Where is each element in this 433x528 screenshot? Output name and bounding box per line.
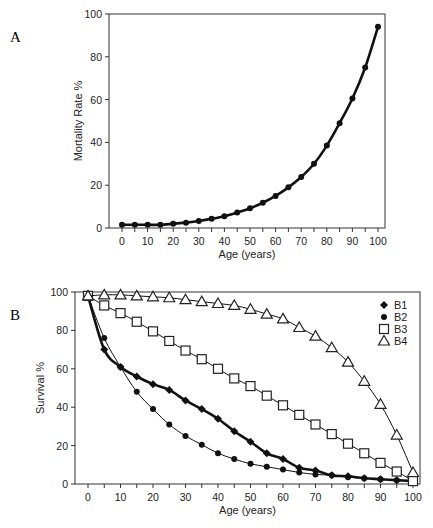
square-marker <box>246 382 255 391</box>
panel-b-label: B <box>10 307 20 323</box>
triangle-marker <box>278 313 289 323</box>
circle-marker <box>324 143 330 149</box>
y-tick-label: 0 <box>62 478 68 490</box>
y-tick-label: 20 <box>56 440 68 452</box>
square-marker <box>344 439 353 448</box>
circle-marker <box>280 467 286 473</box>
x-tick-label: 80 <box>342 491 354 503</box>
square-marker <box>295 410 304 419</box>
circle-marker <box>361 475 367 481</box>
y-tick-label: 40 <box>90 136 102 148</box>
square-marker <box>360 449 369 458</box>
series-mortality <box>119 24 381 228</box>
diamond-marker <box>149 380 157 388</box>
circle-marker <box>248 461 254 467</box>
x-tick-label: 70 <box>310 491 322 503</box>
x-tick-label: 100 <box>404 491 422 503</box>
square-marker <box>116 309 125 318</box>
y-tick-label: 60 <box>90 94 102 106</box>
circle-marker <box>329 472 335 478</box>
x-tick-label: 50 <box>245 491 257 503</box>
circle-marker <box>183 220 189 226</box>
circle-marker <box>349 96 355 102</box>
square-marker <box>279 401 288 410</box>
y-axis-label: Mortality Rate % <box>72 80 84 161</box>
chart-a-mortality: 0204060801000102030405060708090100Age (y… <box>72 8 387 260</box>
y-tick-label: 20 <box>90 179 102 191</box>
legend-label: B4 <box>394 335 407 347</box>
chart-b-survival: 0204060801000102030405060708090100Age (y… <box>34 286 422 516</box>
x-tick-label: 30 <box>180 491 192 503</box>
circle-marker <box>209 216 215 222</box>
plot-frame <box>109 14 385 228</box>
y-axis-label: Survival % <box>34 362 46 414</box>
circle-marker <box>247 205 253 211</box>
circle-marker <box>145 222 151 228</box>
y-tick-label: 100 <box>84 8 102 20</box>
circle-marker <box>298 174 304 180</box>
legend-label: B3 <box>394 323 407 335</box>
square-marker <box>197 355 206 364</box>
circle-marker <box>260 200 266 206</box>
circle-marker <box>285 184 291 190</box>
square-marker <box>311 420 320 429</box>
circle-marker <box>150 406 156 412</box>
x-tick-label: 10 <box>115 491 127 503</box>
x-tick-label: 60 <box>277 491 289 503</box>
y-tick-label: 0 <box>96 222 102 234</box>
circle-marker <box>166 421 172 427</box>
square-marker <box>376 458 385 467</box>
triangle-marker <box>99 289 110 299</box>
legend: B1B2B3B4 <box>379 299 408 347</box>
triangle-marker <box>310 331 321 341</box>
square-marker <box>327 430 336 439</box>
circle-marker <box>118 364 124 370</box>
x-tick-label: 40 <box>219 235 231 247</box>
x-tick-label: 0 <box>119 235 125 247</box>
circle-marker <box>311 161 317 167</box>
circle-marker <box>157 222 163 228</box>
circle-marker <box>362 65 368 71</box>
square-marker <box>132 317 141 326</box>
circle-marker <box>381 314 387 320</box>
square-marker <box>230 374 239 383</box>
circle-marker <box>375 24 381 30</box>
circle-marker <box>134 389 140 395</box>
circle-marker <box>199 442 205 448</box>
circle-marker <box>234 210 240 216</box>
x-tick-label: 20 <box>167 235 179 247</box>
panel-a-label: A <box>10 29 21 45</box>
triangle-marker <box>294 322 305 332</box>
x-tick-label: 20 <box>147 491 159 503</box>
x-tick-label: 0 <box>85 491 91 503</box>
circle-marker <box>378 476 384 482</box>
circle-marker <box>196 218 202 224</box>
diamond-marker <box>380 301 388 309</box>
triangle-marker <box>408 467 419 477</box>
circle-marker <box>273 193 279 199</box>
legend-label: B1 <box>394 299 407 311</box>
square-marker <box>181 346 190 355</box>
y-tick-label: 40 <box>56 401 68 413</box>
circle-marker <box>231 456 237 462</box>
square-marker <box>100 301 109 310</box>
x-tick-label: 50 <box>244 235 256 247</box>
square-marker <box>380 325 389 334</box>
y-tick-label: 100 <box>50 286 68 298</box>
circle-marker <box>215 450 221 456</box>
x-axis-label: Age (years) <box>219 248 276 260</box>
x-tick-label: 10 <box>142 235 154 247</box>
y-tick-label: 80 <box>56 324 68 336</box>
triangle-marker <box>391 430 402 440</box>
x-tick-label: 100 <box>369 235 387 247</box>
circle-marker <box>101 335 107 341</box>
y-tick-label: 80 <box>90 51 102 63</box>
triangle-marker <box>115 289 126 299</box>
figure: A B 0204060801000102030405060708090100Ag… <box>0 0 433 528</box>
triangle-marker <box>148 291 159 301</box>
x-axis-label: Age (years) <box>219 504 276 516</box>
circle-marker <box>296 469 302 475</box>
circle-marker <box>170 221 176 227</box>
legend-label: B2 <box>394 311 407 323</box>
triangle-marker <box>379 336 390 346</box>
